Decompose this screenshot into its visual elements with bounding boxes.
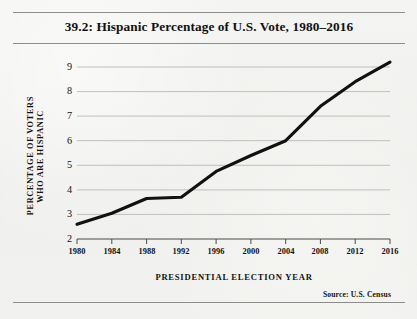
- x-tick-label: 2004: [268, 248, 304, 256]
- x-tick-label: 2000: [233, 248, 269, 256]
- plot-area: PERCENTAGE OF VOTERS WHO ARE HISPANIC 9 …: [0, 0, 417, 319]
- x-tick-label: 2008: [302, 248, 338, 256]
- x-tick-label: 1992: [163, 248, 199, 256]
- x-tick-label: 1980: [59, 248, 95, 256]
- source-note: Source: U.S. Census: [323, 290, 391, 299]
- x-tick-label: 2012: [337, 248, 373, 256]
- data-line-series: [77, 62, 390, 224]
- x-tick-label: 2016: [372, 248, 408, 256]
- x-axis-ticks: [77, 239, 390, 244]
- figure-container: 39.2: Hispanic Percentage of U.S. Vote, …: [0, 0, 417, 319]
- x-tick-label: 1984: [94, 248, 130, 256]
- figure-rule-bottom: [13, 302, 405, 303]
- x-tick-label: 1996: [198, 248, 234, 256]
- x-axis-title: PRESIDENTIAL ELECTION YEAR: [78, 272, 390, 282]
- x-tick-label: 1988: [129, 248, 165, 256]
